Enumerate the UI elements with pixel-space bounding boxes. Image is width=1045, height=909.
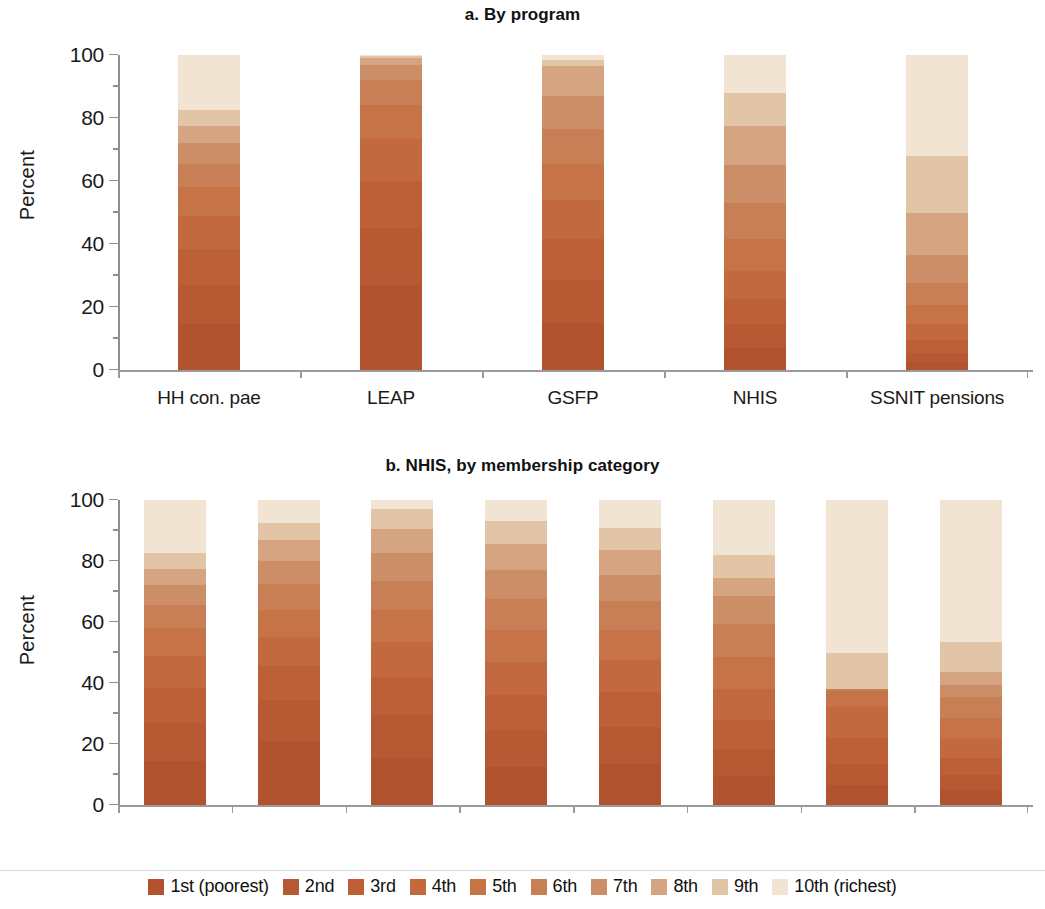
stacked-bar[interactable] [371,500,433,805]
y-tick-minor [113,337,118,339]
legend-swatch-icon [531,879,547,895]
stacked-bar[interactable] [940,500,1002,805]
bar-segment [178,55,240,110]
stacked-bar[interactable] [724,55,786,370]
bar-segment [258,637,320,666]
bar-segment [940,672,1002,684]
legend-label: 10th (richest) [794,876,896,897]
x-axis-label: GSFP [482,385,664,410]
legend-item[interactable]: 4th [410,876,456,897]
y-tick-label: 80 [81,106,104,130]
bar-segment [599,630,661,661]
y-tick-label: 20 [81,295,104,319]
bar-segment [940,758,1002,775]
bar-segment [542,280,604,323]
bar-segment [906,255,968,283]
legend-label: 3rd [370,876,395,897]
panel-a-bars [118,55,1028,370]
benefit-incidence-figure: a. By program Percent 020406080100 HH co… [0,0,1045,909]
bar-segment [371,509,433,529]
bar-segment [940,790,1002,805]
bar-slot [846,55,1028,370]
y-tick-label: 100 [70,488,104,512]
x-tick-mark [118,370,120,378]
bar-segment [178,285,240,324]
legend-item[interactable]: 2nd [283,876,334,897]
legend-item[interactable]: 3rd [348,876,395,897]
legend-item[interactable]: 8th [651,876,697,897]
stacked-bar[interactable] [144,500,206,805]
bar-segment [371,581,433,610]
y-tick-minor [113,590,118,592]
legend-swatch-icon [148,879,164,895]
bar-segment [906,213,968,256]
stacked-bar[interactable] [906,55,968,370]
y-tick-label: 60 [81,610,104,634]
x-tick-mark [482,370,484,378]
legend-label: 1st (poorest) [170,876,268,897]
stacked-bar[interactable] [485,500,547,805]
y-tick-minor [113,773,118,775]
stacked-bar[interactable] [360,55,422,370]
stacked-bar[interactable] [178,55,240,370]
legend-item[interactable]: 5th [470,876,516,897]
bar-slot [346,500,460,805]
bar-segment [724,239,786,271]
legend-item[interactable]: 6th [531,876,577,897]
bar-segment [178,249,240,285]
panel-a-plot-area: 020406080100 [118,55,1028,370]
legend-item[interactable]: 10th (richest) [772,876,896,897]
legend-label: 6th [553,876,577,897]
bar-segment [485,767,547,805]
panel-a-x-labels: HH con. paeLEAPGSFPNHISSSNIT pensions [118,385,1028,410]
bar-segment [599,500,661,527]
stacked-bar[interactable] [599,500,661,805]
bar-segment [360,228,422,285]
bar-segment [826,500,888,653]
panel-b-x-axis-line [118,805,1033,807]
bar-segment [178,187,240,215]
bar-segment [144,605,206,628]
y-tick-mark [109,54,118,56]
decile-legend: 1st (poorest)2nd3rd4th5th6th7th8th9th10t… [0,876,1045,897]
panel-b-nhis-by-membership: b. NHIS, by membership category Percent … [0,440,1045,870]
stacked-bar[interactable] [258,500,320,805]
bar-segment [906,353,968,362]
panel-b-bars [118,500,1028,805]
y-tick-minor [113,274,118,276]
bar-segment [724,348,786,370]
bar-segment [360,65,422,81]
stacked-bar[interactable] [713,500,775,805]
stacked-bar[interactable] [826,500,888,805]
bar-segment [485,630,547,662]
bar-segment [940,697,1002,718]
legend-label: 4th [432,876,456,897]
bar-segment [258,540,320,561]
bar-segment [485,500,547,521]
bar-segment [144,628,206,655]
y-tick-minor [113,85,118,87]
x-axis-label: SSNIT pensions [846,385,1028,410]
bar-segment [906,324,968,340]
legend-swatch-icon [348,879,364,895]
legend-item[interactable]: 7th [591,876,637,897]
bar-segment [258,584,320,610]
y-tick-mark [109,499,118,501]
stacked-bar[interactable] [542,55,604,370]
legend-swatch-icon [470,879,486,895]
legend-label: 7th [613,876,637,897]
bar-segment [258,666,320,700]
x-tick-mark [573,805,575,813]
x-axis-label: NHIS [664,385,846,410]
panel-a-title: a. By program [0,5,1045,25]
bar-slot [482,55,664,370]
y-tick-label: 40 [81,232,104,256]
bar-segment [599,601,661,630]
bar-segment [371,758,433,805]
bar-segment [713,555,775,578]
legend-item[interactable]: 1st (poorest) [148,876,268,897]
legend-item[interactable]: 9th [712,876,758,897]
bar-segment [906,305,968,324]
y-tick-mark [109,180,118,182]
bar-segment [906,340,968,353]
